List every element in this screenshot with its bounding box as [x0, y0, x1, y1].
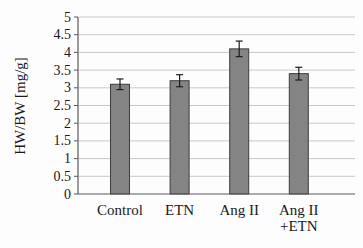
x-tick-labels: ControlETNAng IIAng II+ETN [97, 202, 319, 234]
x-tick-label: Control [97, 202, 143, 218]
y-tick-label: 1.5 [54, 133, 72, 148]
y-tick-label: 4.5 [54, 27, 72, 42]
x-tick-label: +ETN [280, 218, 318, 234]
bar [289, 74, 308, 194]
y-tick-label: 3.5 [54, 63, 72, 78]
y-tick-label: 4 [64, 45, 71, 60]
y-tick-label: 2.5 [54, 98, 72, 113]
y-tick-label: 5 [64, 10, 71, 25]
y-tick-label: 0.5 [54, 169, 72, 184]
bar-chart: 00.511.522.533.544.55 ControlETNAng IIAn… [0, 0, 363, 248]
y-tick-labels: 00.511.522.533.544.55 [54, 10, 72, 202]
y-tick-label: 0 [64, 187, 71, 202]
x-tick-label: ETN [165, 202, 194, 218]
y-tick-label: 1 [64, 151, 71, 166]
y-axis-title: HW/BW [mg/g] [12, 57, 28, 155]
bar [111, 84, 130, 194]
y-tick-label: 2 [64, 116, 71, 131]
y-tick-label: 3 [64, 80, 71, 95]
error-bars [117, 41, 303, 89]
bar-chart-figure: 00.511.522.533.544.55 ControlETNAng IIAn… [0, 0, 363, 248]
bar [170, 81, 189, 194]
bar [230, 49, 249, 194]
bars [111, 49, 309, 194]
x-tick-label: Ang II [279, 202, 319, 218]
x-tick-label: Ang II [219, 202, 259, 218]
